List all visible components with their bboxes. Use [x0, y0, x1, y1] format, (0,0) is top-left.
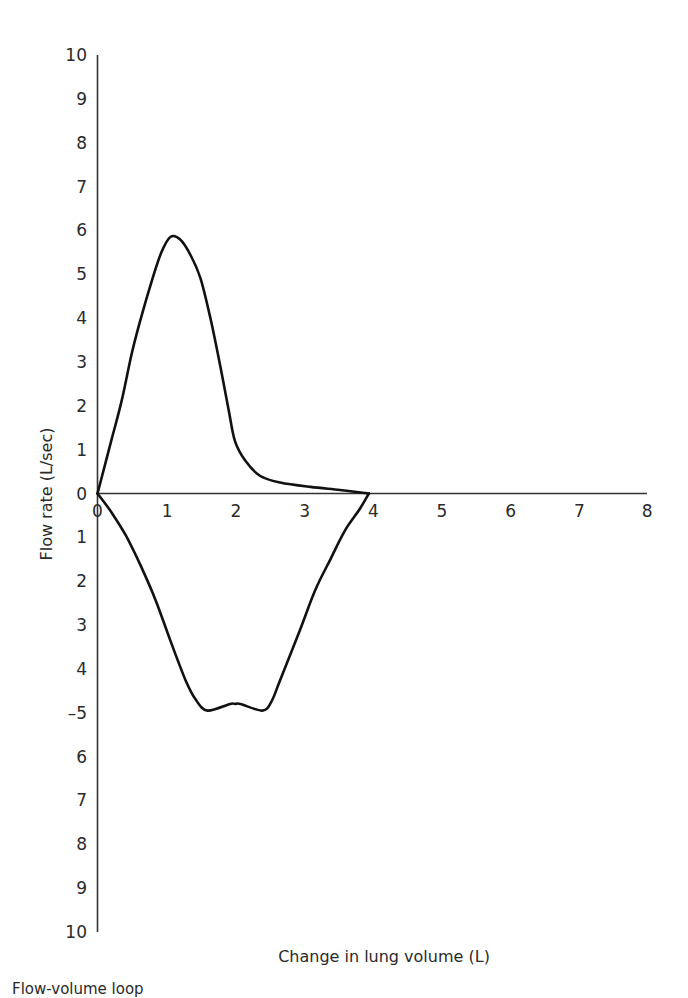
y-tick-labels: 1098765432101234–5678910 [65, 45, 87, 942]
y-tick-label: 4 [76, 308, 87, 328]
y-tick-label: 6 [76, 747, 87, 767]
y-tick-label: 10 [65, 922, 87, 942]
x-tick-label: 8 [642, 501, 653, 521]
y-tick-label: 1 [76, 440, 87, 460]
y-tick-label: 10 [65, 45, 87, 65]
expiratory-curve [98, 236, 369, 494]
y-tick-label: 2 [76, 396, 87, 416]
y-tick-label: 2 [76, 571, 87, 591]
y-tick-label: 8 [76, 834, 87, 854]
x-tick-label: 3 [299, 501, 310, 521]
x-tick-label: 2 [230, 501, 241, 521]
flow-volume-loop [98, 236, 369, 711]
x-axis-title: Change in lung volume (L) [278, 947, 490, 966]
y-tick-label: 7 [76, 790, 87, 810]
y-tick-label: 3 [76, 615, 87, 635]
y-tick-label: 5 [76, 264, 87, 284]
y-tick-label: 3 [76, 352, 87, 372]
figure-caption: Flow-volume loop [12, 980, 144, 998]
y-tick-label: 4 [76, 659, 87, 679]
x-tick-label: 5 [437, 501, 448, 521]
y-tick-label: 1 [76, 527, 87, 547]
x-tick-label: 4 [368, 501, 379, 521]
y-axis-title: Flow rate (L/sec) [37, 428, 56, 561]
y-tick-label: 9 [76, 89, 87, 109]
y-tick-label: 0 [76, 484, 87, 504]
x-tick-label: 6 [505, 501, 516, 521]
x-tick-label: 0 [92, 501, 103, 521]
x-tick-labels: 012345678 [92, 501, 652, 521]
x-tick-label: 7 [574, 501, 585, 521]
y-tick-label: 9 [76, 878, 87, 898]
x-tick-label: 1 [162, 501, 173, 521]
inspiratory-curve [98, 494, 369, 711]
y-tick-label: 7 [76, 177, 87, 197]
y-tick-label: 6 [76, 220, 87, 240]
y-tick-label: –5 [68, 703, 87, 723]
y-tick-label: 8 [76, 133, 87, 153]
